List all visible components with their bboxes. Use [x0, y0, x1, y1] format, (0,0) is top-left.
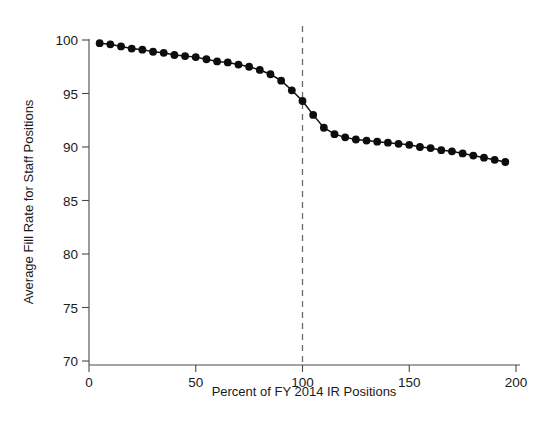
data-point — [384, 139, 392, 147]
data-point — [213, 58, 221, 66]
data-point — [267, 70, 275, 78]
x-tick-label: 50 — [188, 375, 203, 390]
data-point — [96, 39, 104, 47]
data-point — [491, 156, 499, 164]
data-point — [416, 143, 424, 151]
y-axis-tick-marks — [82, 40, 89, 361]
data-point — [469, 152, 477, 160]
data-point — [192, 53, 200, 61]
data-series-markers — [96, 39, 509, 166]
y-tick-label: 85 — [63, 194, 78, 209]
x-tick-label: 150 — [398, 375, 421, 390]
data-point — [363, 137, 371, 145]
data-point — [501, 158, 509, 166]
data-point — [277, 77, 285, 85]
data-point — [256, 66, 264, 74]
data-point — [448, 147, 456, 155]
data-point — [341, 133, 349, 141]
data-point — [171, 51, 179, 59]
data-point — [181, 52, 189, 60]
data-point — [395, 140, 403, 148]
data-point — [427, 144, 435, 152]
data-point — [235, 61, 243, 69]
y-tick-label: 70 — [63, 354, 78, 369]
data-point — [138, 46, 146, 54]
data-point — [299, 97, 307, 105]
data-point — [245, 63, 253, 71]
y-tick-label: 75 — [63, 301, 78, 316]
chart-canvas: 707580859095100 050100150200 Percent of … — [0, 0, 554, 424]
data-point — [224, 59, 232, 67]
y-tick-label: 95 — [63, 87, 78, 102]
data-point — [149, 48, 157, 56]
data-point — [437, 146, 445, 154]
chart-figure: 707580859095100 050100150200 Percent of … — [0, 0, 554, 424]
y-axis-tick-labels: 707580859095100 — [55, 33, 78, 369]
data-point — [405, 141, 413, 149]
x-tick-label: 0 — [85, 375, 93, 390]
y-axis-title: Average Fill Rate for Staff Positions — [21, 99, 36, 304]
y-tick-label: 100 — [55, 33, 78, 48]
data-point — [160, 49, 168, 57]
data-point — [320, 124, 328, 132]
data-point — [480, 154, 488, 162]
data-point — [309, 111, 317, 119]
data-point — [352, 136, 360, 144]
data-point — [288, 86, 296, 94]
data-point — [459, 150, 467, 158]
data-point — [128, 45, 136, 53]
x-tick-label: 200 — [505, 375, 528, 390]
x-axis-tick-marks — [89, 365, 516, 372]
x-axis-title: Percent of FY 2014 IR Positions — [212, 384, 397, 399]
data-point — [203, 55, 211, 63]
y-tick-label: 90 — [63, 140, 78, 155]
data-point — [373, 138, 381, 146]
data-point — [106, 40, 114, 48]
data-point — [331, 130, 339, 138]
data-point — [117, 43, 125, 51]
y-tick-label: 80 — [63, 247, 78, 262]
